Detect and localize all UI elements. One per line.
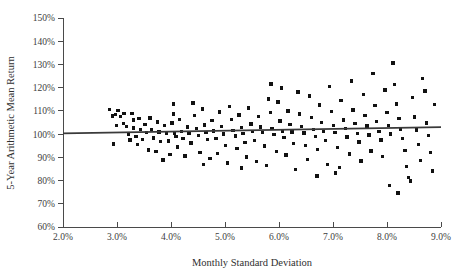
data-point bbox=[419, 159, 422, 162]
data-point bbox=[315, 174, 318, 177]
y-tick-label: 60% bbox=[38, 222, 56, 232]
data-point bbox=[228, 105, 231, 108]
data-point bbox=[338, 166, 341, 169]
data-point bbox=[306, 158, 309, 161]
data-point bbox=[210, 119, 213, 122]
x-tick-label: 7.0% bbox=[323, 232, 343, 242]
data-point bbox=[114, 113, 117, 116]
data-point bbox=[152, 136, 155, 139]
x-tick-label: 5.0% bbox=[215, 232, 235, 242]
data-point bbox=[333, 131, 336, 134]
data-point bbox=[433, 103, 436, 106]
data-point bbox=[170, 121, 173, 124]
data-point bbox=[320, 121, 323, 124]
data-point bbox=[316, 148, 319, 151]
data-point bbox=[362, 93, 365, 96]
y-axis-ticks: 60%70%80%90%100%110%120%130%140%150% bbox=[33, 13, 63, 232]
data-point bbox=[154, 150, 157, 153]
data-point bbox=[259, 125, 262, 128]
data-point bbox=[150, 128, 153, 131]
data-point bbox=[257, 115, 260, 118]
data-point bbox=[427, 134, 430, 137]
data-point bbox=[136, 143, 139, 146]
data-point bbox=[290, 130, 293, 133]
data-point bbox=[272, 133, 275, 136]
data-point bbox=[141, 138, 144, 141]
data-point bbox=[350, 79, 353, 82]
x-tick-label: 4.0% bbox=[161, 232, 181, 242]
data-point bbox=[403, 149, 406, 152]
data-point bbox=[363, 114, 366, 117]
data-point bbox=[296, 90, 299, 93]
y-tick-label: 100% bbox=[33, 130, 55, 140]
x-tick-label: 2.0% bbox=[53, 232, 73, 242]
data-point bbox=[261, 131, 264, 134]
data-point bbox=[322, 130, 325, 133]
data-point bbox=[294, 168, 297, 171]
data-point bbox=[203, 123, 206, 126]
data-point bbox=[385, 111, 388, 114]
data-point bbox=[234, 134, 237, 137]
data-point bbox=[389, 132, 392, 135]
plot-area: 60%70%80%90%100%110%120%130%140%150% 2.0… bbox=[0, 0, 455, 280]
data-point bbox=[208, 157, 211, 160]
data-point bbox=[230, 118, 233, 121]
data-point bbox=[310, 116, 313, 119]
data-point bbox=[330, 110, 333, 113]
data-point bbox=[371, 72, 374, 75]
data-point bbox=[308, 94, 311, 97]
data-point bbox=[302, 131, 305, 134]
data-point bbox=[375, 120, 378, 123]
data-point bbox=[130, 112, 133, 115]
data-point bbox=[147, 148, 150, 151]
data-point bbox=[391, 61, 394, 64]
data-point bbox=[423, 89, 426, 92]
data-point bbox=[429, 151, 432, 154]
data-point bbox=[249, 122, 252, 125]
data-point bbox=[353, 122, 356, 125]
y-tick-label: 110% bbox=[33, 106, 55, 116]
data-point bbox=[235, 147, 238, 150]
data-point bbox=[195, 127, 198, 130]
y-tick-label: 70% bbox=[38, 199, 56, 209]
data-point bbox=[186, 125, 189, 128]
data-point bbox=[381, 155, 384, 158]
y-axis-title: 5-Year Arithmetic Mean Return bbox=[5, 56, 16, 190]
data-point bbox=[108, 108, 111, 111]
x-tick-label: 6.0% bbox=[269, 232, 289, 242]
data-point bbox=[267, 97, 270, 100]
data-point bbox=[128, 138, 131, 141]
data-point bbox=[218, 110, 221, 113]
data-point bbox=[172, 112, 175, 115]
data-point bbox=[405, 165, 408, 168]
data-point bbox=[304, 144, 307, 147]
data-point bbox=[253, 139, 256, 142]
data-point bbox=[237, 113, 240, 116]
data-point bbox=[388, 184, 391, 187]
data-point bbox=[168, 153, 171, 156]
data-point bbox=[282, 136, 285, 139]
data-point bbox=[240, 166, 243, 169]
y-tick-label: 140% bbox=[33, 37, 55, 47]
data-point bbox=[181, 137, 184, 140]
data-point bbox=[241, 132, 244, 135]
y-tick-label: 80% bbox=[38, 176, 56, 186]
y-tick-label: 130% bbox=[33, 60, 55, 70]
data-point bbox=[407, 176, 410, 179]
data-point bbox=[431, 169, 434, 172]
data-point bbox=[178, 118, 181, 121]
data-point bbox=[421, 77, 424, 80]
data-point bbox=[206, 138, 209, 141]
data-point bbox=[334, 171, 337, 174]
data-point bbox=[269, 111, 272, 114]
data-point bbox=[357, 140, 360, 143]
data-point bbox=[222, 132, 225, 135]
data-point bbox=[275, 150, 278, 153]
data-point bbox=[396, 191, 399, 194]
data-point bbox=[367, 133, 370, 136]
data-point bbox=[263, 144, 266, 147]
data-point bbox=[288, 123, 291, 126]
data-point bbox=[393, 83, 396, 86]
data-point bbox=[112, 142, 115, 145]
data-point bbox=[387, 124, 390, 127]
